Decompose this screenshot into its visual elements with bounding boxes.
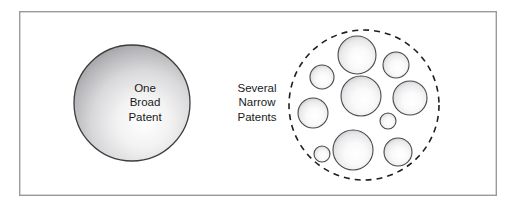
narrow-patent-9 <box>384 138 412 166</box>
narrow-patent-10 <box>314 146 330 162</box>
diagram-canvas: One Broad Patent Several Narrow Patents <box>0 0 519 209</box>
narrow-patents-label-line-2: Narrow <box>238 96 276 108</box>
narrow-patent-8 <box>333 130 373 170</box>
patent-scope-diagram: One Broad Patent Several Narrow Patents <box>0 0 519 209</box>
narrow-patent-4 <box>341 76 381 116</box>
broad-patent-label-line-3: Patent <box>128 111 162 123</box>
narrow-patents-label-line-3: Patents <box>238 111 277 123</box>
broad-patent-label-line-1: One <box>134 82 156 94</box>
narrow-patent-3 <box>383 52 409 78</box>
narrow-patent-1 <box>338 36 376 74</box>
narrow-patent-2 <box>310 65 334 89</box>
broad-patent-label-line-2: Broad <box>130 96 161 108</box>
narrow-patent-5 <box>393 81 427 115</box>
narrow-patents-label-line-1: Several <box>238 82 277 94</box>
narrow-patent-7 <box>380 113 396 129</box>
one-broad-patent-group: One Broad Patent <box>74 45 190 161</box>
narrow-patent-6 <box>298 98 328 128</box>
